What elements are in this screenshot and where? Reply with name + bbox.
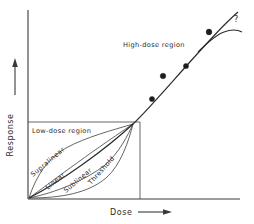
data-point <box>149 96 154 101</box>
x-axis-label: Dose <box>110 208 133 217</box>
high-dose-region-label: High-dose region <box>123 41 185 49</box>
axes-group <box>28 10 240 199</box>
data-point <box>183 63 188 68</box>
low-dose-region-label: Low-dose region <box>32 127 91 135</box>
dose-response-figure: Dose Response Low-dose region High-dose … <box>0 0 254 224</box>
data-points-group <box>149 29 212 102</box>
figure-canvas: Dose Response Low-dose region High-dose … <box>0 0 254 224</box>
up-arrow-icon <box>12 58 18 67</box>
data-point <box>160 73 166 79</box>
data-point <box>206 29 212 35</box>
axis-arrows-group <box>12 58 172 215</box>
uncertainty-branch-curve <box>198 30 242 52</box>
uncertainty-question-mark: ? <box>234 15 238 24</box>
y-axis-label: Response <box>6 113 15 156</box>
main-curve-group <box>29 12 242 198</box>
right-arrow-icon <box>163 209 172 215</box>
main-dose-response-curve <box>29 12 238 198</box>
